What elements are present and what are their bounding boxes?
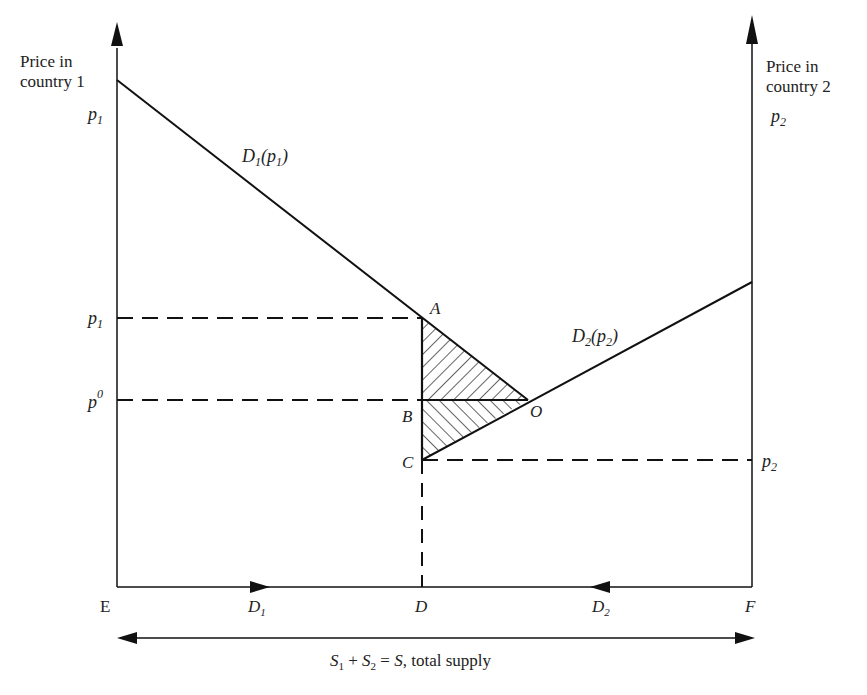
right-axis-arrow-icon [746, 15, 758, 44]
d1-right-arrow-icon [250, 581, 270, 593]
point-e-label: E [100, 597, 110, 616]
left-axis-arrow-icon [111, 22, 123, 46]
total-supply-arrow [117, 632, 755, 644]
supply-right-arrow-icon [735, 632, 755, 644]
p1-level-label: p1 [86, 308, 103, 331]
quantity-baseline [117, 581, 752, 593]
right-axis-title-line1: Price in [766, 57, 819, 76]
p2-level-label: p2 [760, 451, 777, 474]
point-a-label: A [429, 299, 441, 318]
point-c-label: C [402, 453, 414, 472]
right-axis-title-line2: country 2 [766, 77, 831, 96]
p0-level-label: p0 [86, 387, 103, 412]
left-price-axis [111, 22, 123, 587]
right-axis-var: p2 [769, 106, 786, 129]
d1-curve-label: D1(p1) [241, 146, 288, 169]
d2-left-arrow-icon [590, 581, 610, 593]
diagram-canvas: Price in country 1 p1 Price in country 2… [0, 0, 867, 695]
d2-quantity-label: D2 [591, 597, 610, 618]
d1-quantity-label: D1 [247, 597, 266, 618]
right-price-axis [746, 15, 758, 587]
total-supply-label: S1 + S2 = S, total supply [330, 651, 491, 672]
point-f-label: F [744, 597, 756, 616]
point-b-label: B [402, 407, 413, 426]
point-o-label: O [530, 402, 542, 421]
left-axis-title-line2: country 1 [20, 72, 85, 91]
supply-left-arrow-icon [117, 632, 137, 644]
d1-demand-curve [117, 80, 528, 400]
left-axis-var: p1 [86, 104, 103, 127]
d2-curve-label: D2(p2) [571, 326, 618, 349]
left-axis-title-line1: Price in [20, 52, 73, 71]
point-d-label: D [414, 597, 428, 616]
